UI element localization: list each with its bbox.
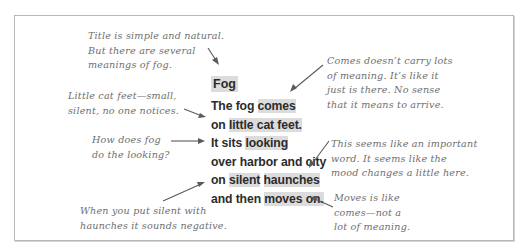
poem-title: Fog — [211, 76, 238, 92]
highlighted-word: haunches — [264, 173, 320, 187]
poem-line: The fog comes — [211, 97, 326, 116]
poem-line: and then moves on. — [211, 190, 326, 209]
note-little-cat-feet: Little cat feet—small, silent, no one no… — [68, 89, 179, 118]
poem-line: over harbor and city — [211, 153, 326, 172]
poem-line: It sits looking — [211, 134, 326, 153]
poem-text: It sits — [211, 136, 245, 150]
highlighted-word: silent — [229, 173, 260, 187]
poem-text: The fog — [211, 99, 258, 113]
poem-text: and then — [211, 192, 264, 206]
highlighted-word: moves on. — [264, 192, 323, 206]
note-comes: Comes doesn’t carry lots of meaning. It’… — [327, 54, 453, 112]
poem-body: The fog comeson little cat feet.It sits … — [211, 97, 326, 208]
highlighted-word: comes — [258, 99, 296, 113]
poem-text: on — [211, 118, 229, 132]
poem-text: on — [211, 173, 229, 187]
note-looking: How does fog do the looking? — [92, 133, 170, 162]
note-title: Title is simple and natural. But there a… — [88, 29, 224, 73]
note-silent-haunches: When you put silent with haunches it sou… — [80, 204, 227, 233]
note-haunches: This seems like an important word. It se… — [331, 137, 477, 181]
poem-text: over harbor and city — [211, 155, 326, 169]
note-moves: Moves is like comes—not a lot of meaning… — [334, 191, 410, 235]
poem-line: on little cat feet. — [211, 116, 326, 135]
highlighted-word: looking — [245, 136, 288, 150]
poem-line: on silent haunches — [211, 171, 326, 190]
highlighted-word: little cat feet. — [229, 118, 302, 132]
